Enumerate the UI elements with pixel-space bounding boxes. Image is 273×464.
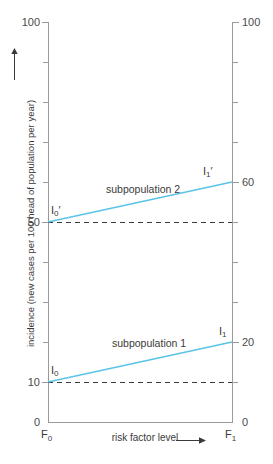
x-category-label-end: F1 xyxy=(225,428,236,445)
point-label-I0-prime: I0′ xyxy=(51,204,61,218)
x-category-start-sub: 0 xyxy=(48,434,52,443)
point-label-I0-sub: 0 xyxy=(54,369,58,378)
chart-figure: incidence (new cases per 100 head of pop… xyxy=(0,0,273,464)
point-label-I0: I0 xyxy=(51,364,59,378)
point-label-I0-prime-sub: 0 xyxy=(54,209,58,218)
x-category-end-base: F xyxy=(225,428,232,440)
x-category-start-base: F xyxy=(41,428,48,440)
point-label-I1-sub: 1 xyxy=(222,330,226,339)
series-label-subpopulation-1: subpopulation 1 xyxy=(112,337,186,349)
series-label-subpopulation-2: subpopulation 2 xyxy=(106,183,180,195)
plot-area xyxy=(0,0,273,464)
x-category-label-start: F0 xyxy=(41,428,52,445)
x-axis-direction-arrow-icon xyxy=(176,436,206,445)
point-label-I1-prime-sub: 1 xyxy=(206,170,210,179)
x-category-end-sub: 1 xyxy=(232,434,236,443)
point-label-I1-prime: I1′ xyxy=(203,165,213,179)
point-label-I1: I1 xyxy=(219,325,227,339)
